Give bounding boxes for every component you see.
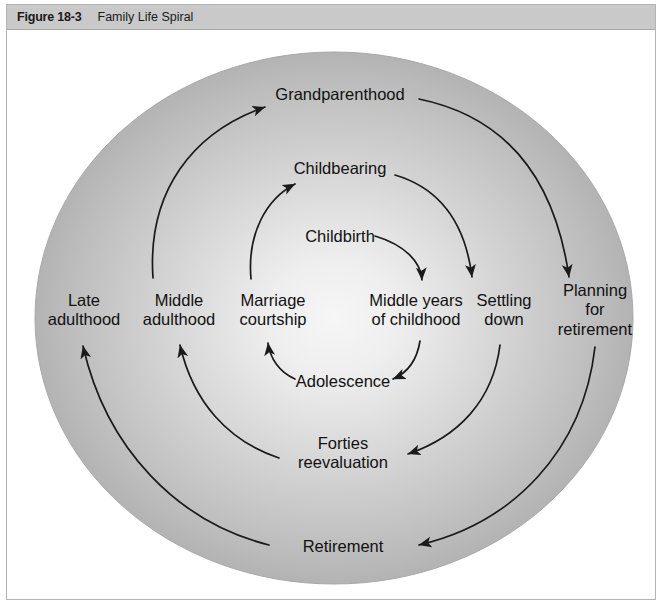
stage-label-settling-down[interactable]: Settling down [476,291,531,330]
stage-label-marriage-courtship[interactable]: Marriage courtship [240,291,307,330]
stage-label-adolescence[interactable]: Adolescence [296,372,390,391]
stage-label-retirement[interactable]: Retirement [303,537,384,556]
stage-label-forties-reevaluation[interactable]: Forties reevaluation [298,434,388,473]
stage-label-grandparenthood[interactable]: Grandparenthood [275,85,404,104]
figure-root: Figure 18-3 Family Life Spiral [0,0,662,604]
stage-label-middle-adulthood[interactable]: Middle adulthood [143,291,216,330]
figure-caption-bar: Figure 18-3 Family Life Spiral [7,5,655,30]
figure-number: Figure 18-3 [17,10,82,24]
stage-label-middle-years-of-childhood[interactable]: Middle years of childhood [369,291,463,330]
figure-title: Family Life Spiral [98,10,194,24]
stage-label-childbirth[interactable]: Childbirth [305,227,375,246]
stage-label-planning-for-retirement[interactable]: Planning for retirement [558,281,632,339]
stage-label-childbearing[interactable]: Childbearing [294,159,387,178]
spiral-disc [35,52,633,584]
family-life-spiral-diagram: Grandparenthood Childbearing Childbirth … [7,31,655,599]
stage-label-late-adulthood[interactable]: Late adulthood [48,291,121,330]
